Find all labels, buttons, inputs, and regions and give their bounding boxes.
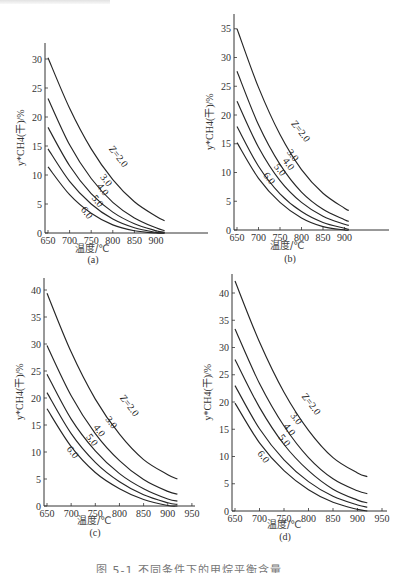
y-tick-label: 35 bbox=[31, 312, 41, 323]
y-tick-label: 15 bbox=[219, 424, 229, 435]
x-tick-label: 900 bbox=[337, 232, 352, 243]
chart-panel-a: 051015202530650700750800850900y*CH4(干)/%… bbox=[15, 43, 208, 266]
curve-label: 6.0 bbox=[79, 204, 95, 221]
y-tick-label: 15 bbox=[221, 138, 231, 149]
y-tick-label: 10 bbox=[219, 451, 229, 462]
x-tick-label: 650 bbox=[230, 232, 245, 243]
x-tick-label: 850 bbox=[127, 235, 142, 246]
y-axis-label: y*CH4(干)/% bbox=[202, 364, 214, 421]
x-tick-label: 900 bbox=[160, 508, 175, 519]
chart-panel-d: 0510152025303540650700750800850900950y*C… bbox=[202, 274, 390, 543]
curve-label: Z=2.0 bbox=[289, 118, 313, 144]
x-axis-label: 温度/℃ bbox=[75, 242, 110, 254]
curve-label: 6.0 bbox=[261, 170, 277, 187]
x-tick-label: 650 bbox=[40, 508, 55, 519]
y-tick-label: 15 bbox=[31, 420, 41, 431]
y-tick-label: 20 bbox=[32, 112, 42, 123]
x-tick-label: 950 bbox=[375, 513, 390, 524]
y-tick-label: 25 bbox=[32, 83, 42, 94]
y-tick-label: 5 bbox=[36, 474, 41, 485]
curve-label: Z=2.0 bbox=[118, 392, 142, 418]
figure-panels: 051015202530650700750800850900y*CH4(干)/%… bbox=[0, 0, 405, 573]
y-tick-label: 30 bbox=[219, 342, 229, 353]
x-tick-label: 850 bbox=[136, 508, 151, 519]
x-tick-label: 850 bbox=[326, 513, 341, 524]
x-tick-label: 900 bbox=[149, 235, 164, 246]
y-tick-label: 5 bbox=[226, 196, 231, 207]
y-axis-label: y*CH4(干)/% bbox=[14, 363, 26, 420]
curve-5.0 bbox=[235, 386, 367, 508]
curve-label: 6.0 bbox=[255, 448, 271, 465]
y-tick-label: 40 bbox=[31, 285, 41, 296]
y-tick-label: 30 bbox=[32, 54, 42, 65]
y-tick-label: 15 bbox=[32, 141, 42, 152]
chart-panel-c: 0510152025303540650700750800850900950y*C… bbox=[14, 278, 199, 539]
x-tick-label: 900 bbox=[350, 513, 365, 524]
curve-4.0 bbox=[235, 360, 367, 503]
panel-label: (b) bbox=[284, 253, 296, 265]
y-tick-label: 5 bbox=[37, 199, 42, 210]
x-axis-label: 温度/℃ bbox=[267, 518, 302, 530]
y-tick-label: 30 bbox=[31, 339, 41, 350]
curve-label: Z=2.0 bbox=[300, 391, 324, 417]
x-tick-label: 700 bbox=[251, 232, 266, 243]
curve-3.0 bbox=[235, 329, 367, 494]
curve-Z2.0 bbox=[235, 281, 367, 477]
y-tick-label: 35 bbox=[221, 23, 231, 34]
y-tick-label: 10 bbox=[31, 447, 41, 458]
panel-label: (c) bbox=[89, 527, 100, 539]
y-tick-label: 35 bbox=[219, 315, 229, 326]
x-axis-label: 温度/℃ bbox=[270, 239, 305, 251]
y-axis-label: y*CH4(干)/% bbox=[204, 93, 216, 150]
x-tick-label: 700 bbox=[252, 513, 267, 524]
y-tick-label: 20 bbox=[221, 110, 231, 121]
curve-label: 6.0 bbox=[65, 444, 81, 461]
x-tick-label: 800 bbox=[112, 508, 127, 519]
y-tick-label: 10 bbox=[221, 167, 231, 178]
x-tick-label: 850 bbox=[316, 232, 331, 243]
y-axis-label: y*CH4(干)/% bbox=[15, 109, 27, 166]
curve-4.0 bbox=[47, 374, 177, 501]
x-axis-label: 温度/℃ bbox=[77, 514, 112, 526]
y-tick-label: 25 bbox=[31, 366, 41, 377]
y-tick-label: 30 bbox=[221, 52, 231, 63]
y-tick-label: 10 bbox=[32, 170, 42, 181]
y-tick-label: 25 bbox=[221, 81, 231, 92]
y-tick-label: 5 bbox=[224, 478, 229, 489]
x-tick-label: 800 bbox=[301, 513, 316, 524]
y-tick-label: 40 bbox=[219, 288, 229, 299]
y-tick-label: 20 bbox=[219, 397, 229, 408]
x-tick-label: 650 bbox=[41, 235, 56, 246]
figure-caption: 图 5-1 不同条件下的甲烷平衡含量 bbox=[96, 560, 326, 573]
x-tick-label: 950 bbox=[184, 508, 199, 519]
chart-panel-b: 05101520253035650700750800850900y*CH4(干)… bbox=[204, 14, 389, 265]
panel-label: (a) bbox=[87, 254, 98, 266]
curve-label: Z=2.0 bbox=[107, 143, 131, 169]
x-tick-label: 650 bbox=[228, 513, 243, 524]
y-tick-label: 20 bbox=[31, 393, 41, 404]
y-tick-label: 25 bbox=[219, 369, 229, 380]
panel-label: (d) bbox=[279, 531, 291, 543]
